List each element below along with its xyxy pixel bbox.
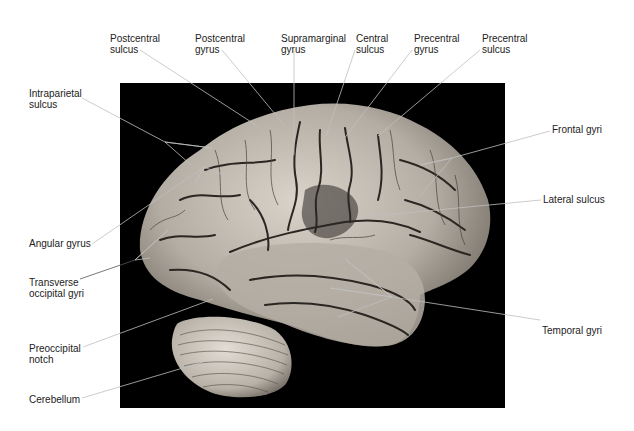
label-precentral-sulcus: Precentral sulcus xyxy=(482,33,528,55)
label-transverse-occipital-gyri: Transverse occipital gyri xyxy=(29,277,84,299)
brain-lateral-figure: Postcentral sulcus Postcentral gyrus Sup… xyxy=(0,0,634,431)
label-lateral-sulcus: Lateral sulcus xyxy=(543,194,605,205)
label-frontal-gyri: Frontal gyri xyxy=(552,124,602,135)
label-intraparietal-sulcus: Intraparietal sulcus xyxy=(29,88,82,110)
label-postcentral-sulcus: Postcentral sulcus xyxy=(110,33,160,55)
label-postcentral-gyrus: Postcentral gyrus xyxy=(195,33,245,55)
label-angular-gyrus: Angular gyrus xyxy=(29,238,91,249)
label-central-sulcus: Central sulcus xyxy=(356,33,388,55)
label-preoccipital-notch: Preoccipital notch xyxy=(29,343,81,365)
label-supramarginal-gyrus: Supramarginal gyrus xyxy=(281,33,346,55)
label-cerebellum: Cerebellum xyxy=(29,394,80,405)
brain-photo xyxy=(0,0,634,431)
label-precentral-gyrus: Precentral gyrus xyxy=(414,33,460,55)
label-temporal-gyri: Temporal gyri xyxy=(542,325,602,336)
